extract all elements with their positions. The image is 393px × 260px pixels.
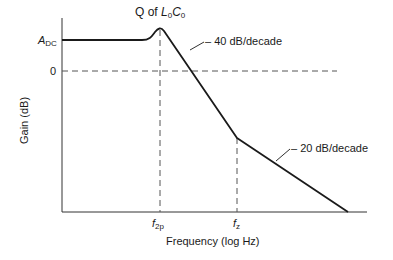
capacitor-subscript: 0 (181, 11, 185, 20)
bode-plot (0, 0, 393, 260)
resonance-label: Q of L0C0 (135, 6, 185, 20)
x-tick-f2p-sub: 2p (155, 222, 164, 231)
leader-40db (190, 42, 204, 50)
inductor-symbol: L (161, 5, 168, 19)
x-axis-label: Frequency (log Hz) (166, 236, 260, 247)
capacitor-symbol: C (172, 5, 181, 19)
x-tick-fz: fz (233, 218, 240, 231)
y-tick-adc-sub: DC (45, 39, 57, 48)
leader-20db (276, 149, 290, 161)
y-tick-zero-main: 0 (50, 65, 56, 77)
y-tick-zero: 0 (50, 66, 56, 77)
x-tick-f2p: f2p (152, 218, 164, 231)
resonance-prefix: Q of (135, 5, 161, 19)
x-tick-fz-sub: z (236, 222, 240, 231)
slope-20db-label: – 20 dB/decade (291, 143, 368, 154)
y-tick-adc: ADC (38, 35, 57, 48)
gain-curve (62, 28, 348, 212)
slope-40db-label: – 40 dB/decade (205, 36, 282, 47)
y-axis-label: Gain (dB) (18, 97, 30, 144)
